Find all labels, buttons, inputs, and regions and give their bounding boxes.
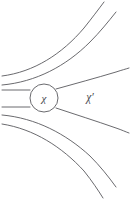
diagram-canvas: χ χ′	[0, 0, 131, 200]
diagram-background	[0, 0, 131, 200]
region-chi-prime-label: χ′	[85, 91, 94, 104]
field-line-diagram: χ χ′	[0, 0, 131, 200]
